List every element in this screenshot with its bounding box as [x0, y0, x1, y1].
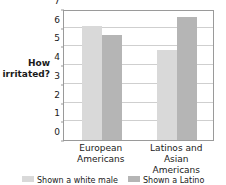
y-axis-tick-label: 4 — [46, 53, 60, 62]
y-axis-tick-label: 3 — [46, 71, 60, 80]
chart-figure: How irritated? 01234567 EuropeanAmerican… — [0, 0, 226, 185]
y-axis-tick-mark — [61, 103, 64, 104]
y-axis-title-line-1: How — [0, 58, 50, 69]
y-axis-tick-label: 5 — [46, 34, 60, 43]
legend-entry: Shown a white male — [22, 176, 118, 185]
x-axis-category-label-line: Latinos and Asian — [139, 143, 215, 165]
y-axis-tick-label: 6 — [46, 15, 60, 24]
y-axis-title: How irritated? — [0, 58, 50, 80]
y-axis-tick-mark — [61, 84, 64, 85]
legend-label: Shown a Latino — [143, 176, 204, 185]
y-axis-title-line-2: irritated? — [0, 69, 50, 80]
bar — [102, 35, 122, 140]
y-axis-tick-mark — [61, 122, 64, 123]
legend-entry: Shown a Latino — [128, 176, 204, 185]
y-axis-tick-mark — [61, 141, 64, 142]
bar — [82, 26, 102, 140]
x-axis-category-label: Latinos and AsianAmericans — [139, 143, 215, 176]
y-axis-tick-label: 1 — [46, 109, 60, 118]
chart-legend: Shown a white maleShown a Latino — [0, 176, 226, 185]
y-axis-tick-label: 2 — [46, 90, 60, 99]
x-axis-category-label-line: Americans — [139, 165, 215, 176]
legend-swatch — [22, 176, 34, 182]
x-axis-category-label: EuropeanAmericans — [63, 143, 139, 165]
x-axis-category-labels: EuropeanAmericansLatinos and AsianAmeric… — [63, 143, 214, 167]
y-axis-tick-mark — [61, 10, 64, 11]
y-axis-tick-labels: 01234567 — [46, 10, 60, 141]
bar — [177, 17, 197, 141]
y-axis-tick-label: 7 — [46, 0, 60, 6]
x-axis-category-label-line: European — [63, 143, 139, 154]
y-axis-tick-mark — [61, 28, 64, 29]
legend-label: Shown a white male — [37, 176, 118, 185]
x-axis-category-label-line: Americans — [63, 154, 139, 165]
y-axis-tick-label: 0 — [46, 128, 60, 137]
legend-swatch — [128, 176, 140, 182]
y-axis-tick-mark — [61, 47, 64, 48]
plot-area — [63, 10, 214, 141]
bar — [157, 50, 177, 140]
y-axis-tick-mark — [61, 66, 64, 67]
